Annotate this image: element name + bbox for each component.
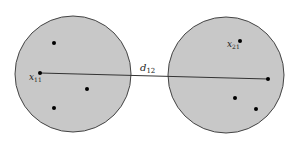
data-point: [38, 71, 42, 75]
data-point: [52, 106, 56, 110]
cluster-2: [168, 17, 284, 133]
data-point: [52, 41, 56, 45]
data-point: [254, 107, 258, 111]
data-point: [233, 96, 237, 100]
cluster-2-circle: [168, 17, 284, 133]
data-point: [85, 87, 89, 91]
data-point: [266, 77, 270, 81]
cluster-distance-diagram: d12 x11 x21: [0, 0, 301, 145]
distance-label: d12: [140, 62, 155, 75]
